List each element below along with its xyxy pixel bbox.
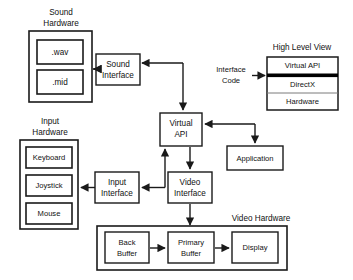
node-sound-interface-label-line2: Interface (102, 71, 134, 80)
node-application-label: Application (236, 154, 273, 163)
input-hardware-title-line1: Input (41, 117, 60, 126)
node-wav-label: .wav (52, 48, 70, 57)
node-input-interface-label-line1: Input (108, 178, 127, 187)
node-sound-interface[interactable] (96, 54, 140, 85)
video-hardware-title: Video Hardware (232, 214, 291, 223)
node-primary-buffer-label-line1: Primary (178, 238, 204, 247)
node-video-interface-label-line2: Interface (174, 189, 206, 198)
node-virtual-api-label-line1: Virtual (169, 119, 192, 128)
node-joystick-label: Joystick (35, 181, 62, 190)
node-virtual-api-label-line2: API (174, 130, 187, 139)
node-display-label: Display (243, 243, 268, 252)
node-sound-interface-label-line1: Sound (106, 60, 130, 69)
node-mid-label: .mid (52, 78, 68, 87)
architecture-diagram: Sound Hardware .wav .mid Sound Interface… (0, 0, 353, 280)
node-hlv-hardware-label: Hardware (286, 97, 319, 106)
high-level-view-title: High Level View (273, 43, 332, 52)
diagram-canvas: Sound Hardware .wav .mid Sound Interface… (0, 0, 353, 280)
node-primary-buffer-label-line2: Buffer (181, 249, 202, 258)
node-video-interface-label-line1: Video (180, 178, 201, 187)
annotation-interface-code-line1: Interface (216, 65, 246, 74)
node-back-buffer-label-line1: Back (119, 238, 136, 247)
node-back-buffer-label-line2: Buffer (117, 249, 138, 258)
node-video-interface[interactable] (168, 172, 212, 203)
sound-hardware-title-line1: Sound (49, 8, 73, 17)
sound-hardware-title-line2: Hardware (43, 19, 79, 28)
node-hlv-directx-label: DirectX (290, 80, 315, 89)
node-mouse-label: Mouse (38, 209, 61, 218)
node-keyboard-label: Keyboard (33, 153, 66, 162)
input-hardware-title-line2: Hardware (32, 128, 68, 137)
hlv-interface-divider (267, 74, 338, 78)
node-input-interface[interactable] (95, 172, 139, 203)
node-input-interface-label-line2: Interface (101, 189, 133, 198)
annotation-interface-code-line2: Code (222, 76, 240, 85)
node-hlv-virtual-api-label: Virtual API (285, 61, 320, 70)
